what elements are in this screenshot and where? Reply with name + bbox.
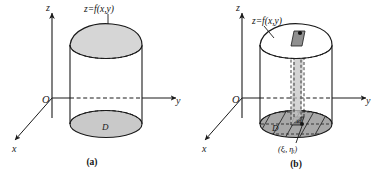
origin-label-b: O <box>232 94 240 105</box>
surface-label-a: z=f(x,y) <box>83 4 114 15</box>
z-axis-label-b: z <box>235 2 240 13</box>
region-label-b: D <box>271 123 279 133</box>
region-label-a: D <box>101 122 109 132</box>
sample-point-label-b: (ξᵢ, ηᵢ) <box>278 145 298 154</box>
x-axis-label-a: x <box>11 143 17 154</box>
figure-panel-b: z y x O <box>190 0 379 173</box>
top-surface-a <box>70 24 142 59</box>
x-axis-label-b: x <box>201 143 207 154</box>
y-axis-label-b: y <box>365 95 371 106</box>
caption-a: (a) <box>86 157 97 168</box>
surface-label-b: z=f(x,y) <box>251 16 282 27</box>
z-axis-label-a: z <box>45 2 50 13</box>
figure-container: z y x O D z=f(x,y) <box>0 0 379 173</box>
caption-b: (b) <box>290 159 302 170</box>
surface-sample-dot-b <box>298 31 302 35</box>
y-axis-label-a: y <box>175 95 181 106</box>
origin-label-a: O <box>42 94 50 105</box>
figure-panel-a: z y x O D z=f(x,y) <box>0 0 189 173</box>
